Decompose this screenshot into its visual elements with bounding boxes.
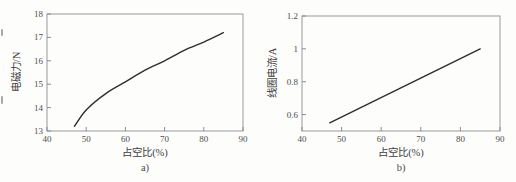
plot-box [302, 16, 500, 131]
x-tick-label: 70 [160, 134, 170, 144]
y-tick-label: 17 [34, 32, 44, 42]
chart-a: 405060708090131415161718 电磁力/N 占空比(%) a) [0, 0, 258, 182]
x-tick-label: 90 [239, 134, 249, 144]
chart-a-canvas: 405060708090131415161718 电磁力/N 占空比(%) a) [0, 0, 258, 182]
caption-b: b) [397, 162, 406, 174]
y-tick-label: 0.8 [287, 77, 299, 87]
x-axis-label-a: 占空比(%) [122, 146, 168, 159]
caption-a: a) [141, 162, 150, 174]
chart-b: 4050607080900.60.811.2 线圈电流/A 占空比(%) b) [258, 0, 516, 182]
y-tick-label: 14 [34, 103, 44, 113]
series-line-线圈电流 [330, 49, 481, 123]
y-tick-label: 1 [294, 44, 299, 54]
x-tick-label: 40 [298, 134, 308, 144]
x-axis-label-b: 占空比(%) [378, 146, 424, 159]
x-tick-label: 60 [377, 134, 387, 144]
x-tick-label: 80 [456, 134, 466, 144]
y-axis-label-a: 电磁力/N [10, 51, 22, 92]
series-line-电磁力 [74, 33, 223, 127]
x-tick-label: 80 [199, 134, 209, 144]
y-tick-label: 13 [34, 126, 44, 136]
y-tick-label: 18 [34, 9, 44, 19]
x-tick-label: 40 [43, 134, 53, 144]
y-axis-label-b: 线圈电流/A [266, 47, 278, 98]
y-tick-label: 0.6 [287, 110, 299, 120]
x-tick-label: 90 [496, 134, 506, 144]
x-tick-label: 50 [337, 134, 347, 144]
y-tick-label: 1.2 [287, 11, 298, 21]
x-tick-label: 60 [121, 134, 131, 144]
two-panel-line-figure: 405060708090131415161718 电磁力/N 占空比(%) a)… [0, 0, 516, 182]
x-tick-label: 50 [82, 134, 92, 144]
plot-area-b: 4050607080900.60.811.2 [287, 11, 505, 144]
chart-b-canvas: 4050607080900.60.811.2 线圈电流/A 占空比(%) b) [258, 0, 516, 182]
y-tick-label: 15 [34, 79, 44, 89]
x-tick-label: 70 [416, 134, 426, 144]
plot-area-a: 405060708090131415161718 [34, 9, 248, 144]
y-tick-label: 16 [34, 56, 44, 66]
plot-box [47, 14, 243, 131]
